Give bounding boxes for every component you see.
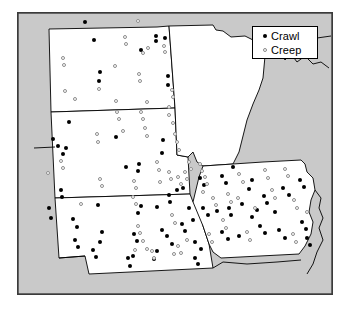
legend-label-crawl: Crawl	[271, 29, 300, 43]
state-north-dakota	[49, 26, 175, 112]
state-south-dakota	[51, 108, 190, 198]
creep-marker-icon	[259, 48, 271, 52]
legend-item-crawl: Crawl	[259, 29, 317, 43]
state-iowa	[193, 160, 315, 258]
legend-item-creep: Creep	[259, 43, 317, 57]
crawl-marker-icon	[259, 34, 271, 38]
legend-label-creep: Creep	[271, 43, 301, 57]
map-legend: Crawl Creep	[252, 26, 318, 59]
figure-container: Crawl Creep	[0, 0, 349, 310]
